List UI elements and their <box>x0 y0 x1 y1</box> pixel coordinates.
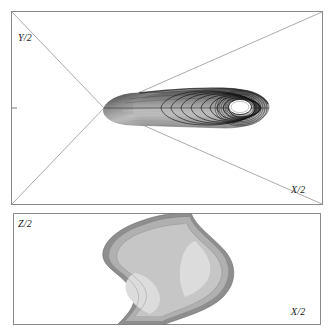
top-panel-x-axis-label: X/2 <box>291 185 306 195</box>
figure-container: Y/2 X/2 Z/2 X/2 <box>0 0 334 335</box>
bottom-panel-x-axis-label: X/2 <box>291 307 306 317</box>
top-panel-y-axis-label: Y/2 <box>18 33 32 43</box>
top-panel-xy-projection <box>11 11 323 205</box>
vortex-core-inner <box>231 101 249 112</box>
xy-projection-plot <box>11 11 323 205</box>
bottom-panel-y-axis-label: Z/2 <box>18 219 32 229</box>
s-shaped-contour-region <box>103 213 234 325</box>
bottom-panel-xz-projection <box>13 213 321 325</box>
vortex-structure <box>104 88 269 128</box>
xz-projection-plot <box>13 213 321 325</box>
